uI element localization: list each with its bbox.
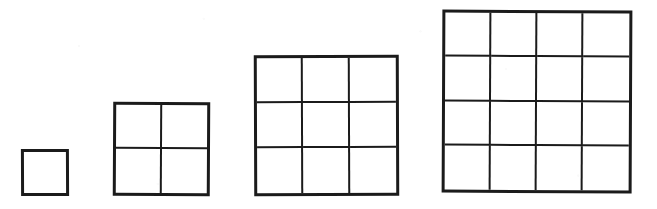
grid-cell [537,57,583,101]
grid-cell [350,103,396,148]
grid-cell [583,102,629,146]
figure-canvas [0,0,657,209]
grid-cell [491,13,537,57]
grid-cell [583,146,629,190]
grid-cell [445,13,491,57]
grid-cell [303,103,349,148]
grid-2x2 [113,102,210,197]
grid-3x3 [254,55,399,197]
grid-cell [116,105,162,149]
grid-cell [162,105,208,149]
grid-cell [537,146,583,190]
grid-4x4 [442,10,633,194]
grid-cell [257,103,303,148]
grid-cell [583,57,629,101]
grid-cell [116,149,162,193]
grid-cell [491,146,537,190]
grid-cell [24,152,66,193]
grid-cell [491,101,537,145]
grid-cell [537,102,583,146]
grid-cell [537,13,583,57]
grid-cell [445,145,491,189]
grid-cell [349,58,395,103]
grid-cell [257,58,303,103]
grid-cell [445,57,491,101]
grid-cell [303,58,349,103]
grid-cell [161,149,207,193]
grid-cell [445,101,491,145]
grid-cell [583,13,629,57]
grid-cell [350,148,396,193]
grid-1x1 [21,149,69,196]
grid-cell [303,148,349,193]
grid-cell [257,148,303,193]
grid-cell [491,57,537,101]
